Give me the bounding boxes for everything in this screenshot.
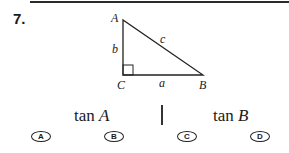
vertex-a-label: A — [111, 12, 118, 24]
triangle-diagram — [0, 0, 289, 100]
prompt-tan-a: tan A — [74, 107, 109, 125]
choice-b-bubble[interactable]: B — [104, 131, 124, 142]
prompt-func: tan — [213, 106, 234, 125]
choice-c-bubble[interactable]: C — [177, 131, 197, 142]
vertex-b-label: B — [199, 79, 206, 91]
side-b-label: b — [112, 43, 118, 55]
prompt-var: B — [238, 106, 248, 125]
prompt-divider — [161, 105, 163, 125]
prompt-tan-b: tan B — [213, 107, 248, 125]
side-c-label: c — [160, 33, 165, 45]
vertex-c-label: C — [117, 79, 125, 91]
prompt-func: tan — [74, 106, 95, 125]
prompt-var: A — [99, 106, 109, 125]
side-a-label: a — [159, 77, 165, 89]
choice-d-bubble[interactable]: D — [250, 131, 270, 142]
choice-a-bubble[interactable]: A — [31, 131, 51, 142]
